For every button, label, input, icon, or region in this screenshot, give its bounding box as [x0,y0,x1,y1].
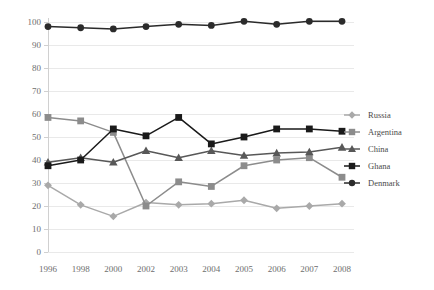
data-point-marker [143,23,150,30]
y-tick-label: 30 [32,178,42,188]
data-point-marker [175,178,182,185]
y-tick-label: 0 [37,247,42,257]
y-tick-label: 100 [28,17,42,27]
data-point-marker [142,147,151,155]
data-point-marker [207,147,216,155]
y-tick-label: 80 [32,63,42,73]
legend-item-russia[interactable]: Russia [344,110,391,120]
data-point-marker [306,154,313,161]
data-point-marker [110,126,117,133]
data-point-marker [306,126,313,133]
data-point-marker [77,24,84,31]
data-point-marker [273,157,280,164]
x-axis-group: 1996199820002002200320042005200620072008 [39,264,352,274]
data-point-marker [241,18,248,25]
data-point-marker [339,174,346,181]
data-point-marker [175,21,182,28]
y-axis-group: 0102030405060708090100 [28,17,49,257]
data-point-marker [143,132,150,139]
legend-item-argentina[interactable]: Argentina [344,127,402,137]
x-tick-label: 1996 [39,264,58,274]
data-point-marker [349,180,355,186]
data-point-marker [45,114,52,121]
legend-label: Ghana [368,161,390,171]
x-tick-label: 2007 [300,264,319,274]
data-point-marker [77,118,84,125]
chart-canvas: 0102030405060708090100 19961998200020022… [0,0,434,290]
data-point-marker [143,203,150,210]
data-point-marker [208,141,215,148]
legend-label: Russia [368,110,391,120]
y-tick-label: 90 [32,40,42,50]
data-point-marker [77,201,85,209]
data-point-marker [45,162,52,169]
data-point-marker [109,212,117,220]
data-point-marker [240,196,248,204]
data-point-marker [110,26,117,33]
y-tick-label: 50 [32,132,42,142]
data-point-marker [273,21,280,28]
legend: RussiaArgentinaChinaGhanaDenmark [344,110,402,188]
data-point-marker [208,183,215,190]
y-tick-label: 70 [32,86,42,96]
x-tick-label: 2004 [202,264,221,274]
series-denmark [45,18,346,32]
y-tick-label: 10 [32,224,42,234]
legend-item-ghana[interactable]: Ghana [344,161,390,171]
series-group [44,18,347,220]
x-tick-label: 2000 [104,264,123,274]
data-point-marker [349,163,355,169]
data-point-marker [241,162,248,169]
series-china [44,143,347,166]
y-tick-label: 60 [32,109,42,119]
legend-label: Denmark [368,178,400,188]
series-russia [44,181,346,220]
data-point-marker [349,129,355,135]
x-tick-label: 2003 [170,264,189,274]
x-tick-label: 1998 [72,264,91,274]
data-point-marker [208,22,215,29]
data-point-marker [77,157,84,164]
legend-item-denmark[interactable]: Denmark [344,178,400,188]
data-point-marker [175,114,182,121]
data-point-marker [175,201,183,209]
series-line [48,185,342,216]
data-point-marker [241,134,248,141]
legend-item-china[interactable]: China [344,144,389,154]
data-point-marker [348,111,355,118]
line-chart: 0102030405060708090100 19961998200020022… [0,0,434,290]
x-tick-label: 2008 [333,264,352,274]
legend-label: China [368,144,389,154]
y-tick-label: 40 [32,155,42,165]
series-ghana [45,114,346,169]
legend-label: Argentina [368,127,402,137]
x-tick-label: 2002 [137,264,155,274]
data-point-marker [305,202,313,210]
x-tick-label: 2006 [268,264,287,274]
y-tick-label: 20 [32,201,42,211]
data-point-marker [273,126,280,133]
data-point-marker [306,18,313,25]
data-point-marker [45,23,52,30]
x-tick-label: 2005 [235,264,254,274]
data-point-marker [339,18,346,25]
